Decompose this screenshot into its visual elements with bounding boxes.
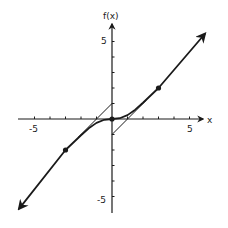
asymptote-line bbox=[78, 104, 112, 138]
function-graph: x f(x) -5 5 5 -5 bbox=[0, 0, 228, 228]
data-point bbox=[109, 116, 114, 121]
y-axis-label: f(x) bbox=[103, 11, 119, 21]
data-point bbox=[156, 85, 161, 90]
data-point bbox=[63, 147, 68, 152]
asymptote-line bbox=[112, 100, 146, 134]
x-tick-label-5: 5 bbox=[187, 124, 193, 134]
x-tick-label-neg5: -5 bbox=[29, 124, 38, 134]
y-tick-label-neg5: -5 bbox=[97, 195, 106, 205]
x-axis-label: x bbox=[207, 115, 213, 125]
y-tick-label-5: 5 bbox=[101, 36, 107, 46]
